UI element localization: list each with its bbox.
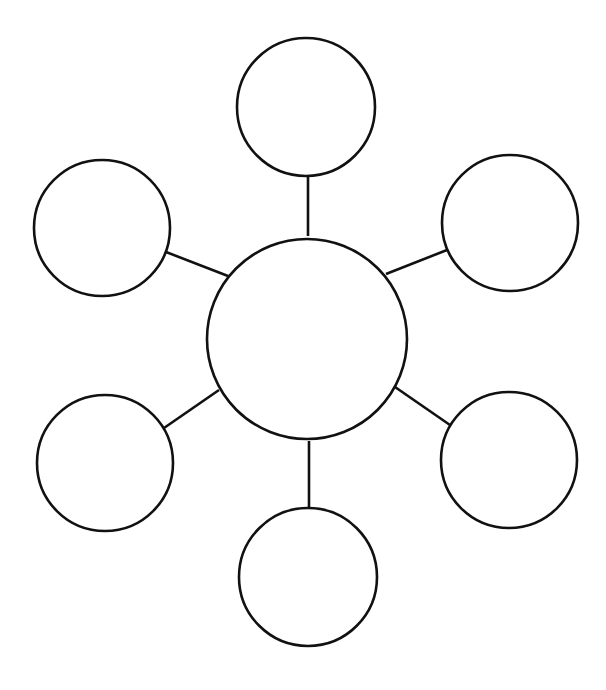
center-circle	[207, 239, 407, 439]
node-top	[237, 38, 375, 176]
connector-bottom-left	[164, 390, 219, 428]
node-circle-top-left	[34, 160, 170, 296]
node-circle-bottom-right	[441, 392, 577, 528]
node-bottom	[239, 508, 377, 646]
bubble-map-diagram	[0, 0, 606, 690]
node-circle-bottom	[239, 508, 377, 646]
connector-top-left	[166, 252, 228, 276]
connector-top-right	[386, 250, 447, 274]
node-circle-top	[237, 38, 375, 176]
node-circle-bottom-left	[37, 395, 173, 531]
connector-bottom-right	[395, 387, 450, 425]
node-bottom-right	[441, 392, 577, 528]
node-top-right	[442, 155, 578, 291]
nodes	[34, 38, 578, 646]
center-node	[207, 239, 407, 439]
node-top-left	[34, 160, 170, 296]
node-bottom-left	[37, 395, 173, 531]
node-circle-top-right	[442, 155, 578, 291]
